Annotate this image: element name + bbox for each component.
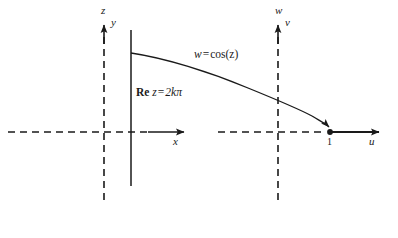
x-axis-label: x: [173, 136, 178, 147]
curve-label-equals: =: [202, 48, 211, 60]
curve-label-rhs: cos(z): [210, 48, 238, 60]
line-label-re-z-equals-2kpi: Re z=2kπ: [136, 87, 182, 99]
curve-label-lhs: w: [194, 48, 202, 60]
z-plane-label: z: [101, 5, 105, 16]
line-label-value: 2kπ: [165, 86, 182, 98]
figure-canvas: [0, 0, 398, 238]
line-label-equals: =: [157, 86, 166, 98]
line-label-re: Re: [136, 86, 149, 98]
curve-w-equals-cos-z: [131, 53, 312, 116]
curve-label-w-equals-cos-z: w=cos(z): [194, 49, 238, 61]
curve-arrow-to-point-one: [312, 116, 329, 127]
point-one-label: 1: [327, 137, 332, 147]
u-axis-label: u: [369, 136, 375, 147]
point-w-equals-one: [327, 129, 333, 135]
y-axis-label: y: [111, 17, 116, 28]
v-axis-label: v: [285, 17, 290, 28]
w-plane-label: w: [275, 5, 282, 16]
complex-mapping-figure: z y x Re z=2kπ w v u 1 w=cos(z): [0, 0, 398, 238]
